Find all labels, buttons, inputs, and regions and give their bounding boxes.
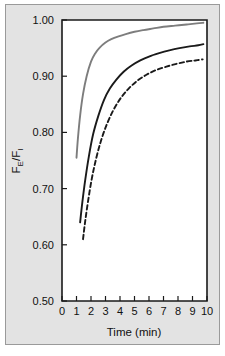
x-tick-label: 7 <box>160 305 166 317</box>
x-tick-label: 6 <box>146 305 152 317</box>
x-tick-label: 1 <box>73 305 79 317</box>
y-axis-tick-labels: 0.500.600.700.800.901.00 <box>33 14 54 307</box>
x-tick-label: 9 <box>189 305 195 317</box>
y-tick-label: 0.80 <box>33 126 54 138</box>
figure-panel: 0.500.600.700.800.901.00 012345678910 Ti… <box>5 4 220 345</box>
x-axis-title: Time (min) <box>107 326 162 338</box>
y-axis-title-denominator: F <box>10 151 22 158</box>
x-tick-label: 2 <box>88 305 94 317</box>
y-axis-title: FE/FI <box>10 149 25 174</box>
plot-area-background <box>62 20 207 301</box>
x-tick-label: 5 <box>131 305 137 317</box>
y-tick-label: 0.90 <box>33 70 54 82</box>
x-tick-label: 4 <box>117 305 123 317</box>
y-tick-label: 0.70 <box>33 183 54 195</box>
x-axis-tick-labels: 012345678910 <box>59 305 213 317</box>
x-tick-label: 8 <box>175 305 181 317</box>
y-tick-label: 1.00 <box>33 14 54 26</box>
svg-text:FE/FI: FE/FI <box>10 149 25 174</box>
chart-canvas: 0.500.600.700.800.901.00 012345678910 Ti… <box>6 5 219 344</box>
x-tick-label: 10 <box>201 305 213 317</box>
x-tick-label: 0 <box>59 305 65 317</box>
y-tick-label: 0.60 <box>33 239 54 251</box>
y-axis-title-numerator: F <box>10 166 22 173</box>
x-tick-label: 3 <box>102 305 108 317</box>
y-tick-label: 0.50 <box>33 295 54 307</box>
y-axis-title-denominator-subscript: I <box>16 149 25 151</box>
